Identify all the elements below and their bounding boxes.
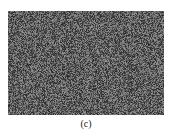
figure-caption: (c)	[0, 117, 172, 131]
figure-panel-c: (c)	[0, 0, 172, 136]
noise-image	[8, 11, 164, 115]
noise-canvas	[8, 11, 164, 115]
